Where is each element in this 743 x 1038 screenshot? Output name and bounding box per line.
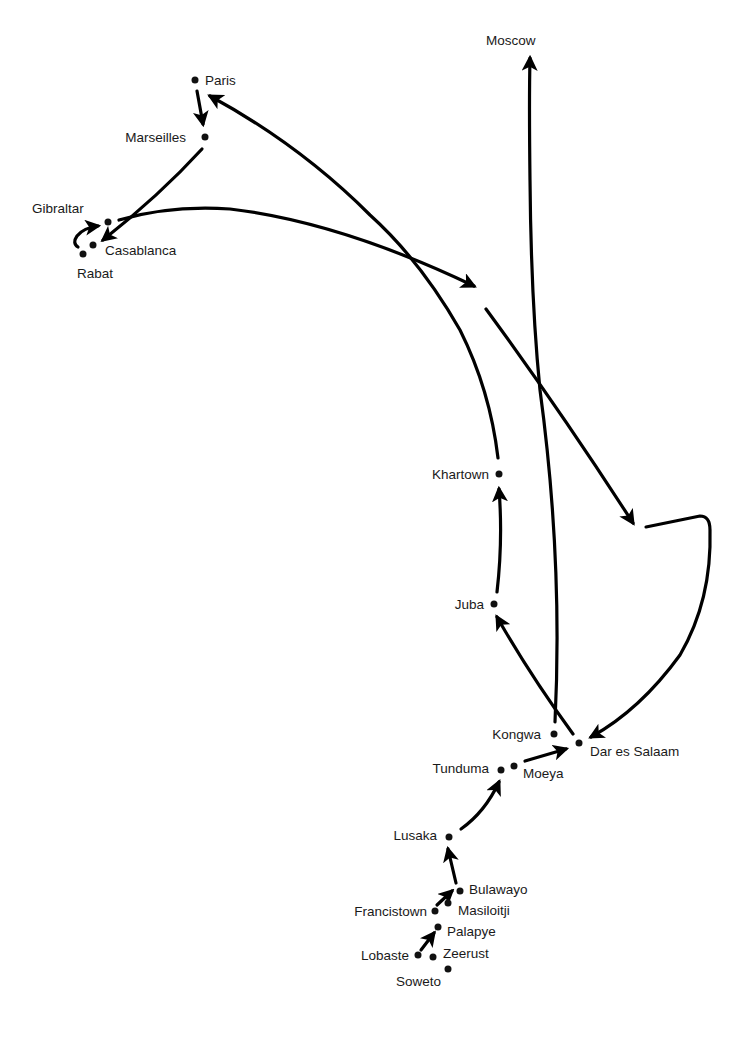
city-dot-soweto [445, 966, 452, 973]
city-label-marseilles: Marseilles [125, 130, 186, 145]
city-label-khartown: Khartown [432, 467, 489, 482]
city-dot-bulawayo [457, 888, 464, 895]
city-dot-zeerust [430, 954, 437, 961]
city-label-palapye: Palapye [447, 924, 496, 939]
route-moeya-dar [525, 749, 566, 761]
routes [75, 58, 710, 950]
city-label-lusaka: Lusaka [393, 828, 437, 843]
city-label-tunduma: Tunduma [432, 761, 489, 776]
city-dot-gibraltar [105, 219, 112, 226]
route-marseilles-casablanca [103, 149, 202, 240]
city-dot-masiloitji [445, 900, 452, 907]
city-dot-francistown [432, 908, 439, 915]
city-label-masiloitji: Masiloitji [458, 903, 510, 918]
city-dot-paris [192, 77, 199, 84]
city-label-casablanca: Casablanca [105, 243, 177, 258]
route-map: Paris Marseilles Gibraltar Casablanca Ra… [0, 0, 743, 1038]
city-label-moscow: Moscow [486, 33, 536, 48]
city-dot-dar-es-salaam [576, 740, 583, 747]
route-lusaka-tunduma [461, 782, 499, 829]
city-dot-juba [491, 601, 498, 608]
city-label-gibraltar: Gibraltar [32, 201, 84, 216]
city-dot-tunduma [498, 767, 505, 774]
route-juba-khartown [497, 489, 501, 592]
route-paris-marseilles [197, 91, 203, 124]
city-label-bulawayo: Bulawayo [469, 882, 528, 897]
route-bulawayo-lusaka [448, 849, 456, 883]
city-dot-moeya [511, 763, 518, 770]
route-east-southeast [486, 309, 633, 523]
city-label-lobaste: Lobaste [361, 948, 409, 963]
city-label-kongwa: Kongwa [492, 727, 541, 742]
city-label-dar-es-salaam: Dar es Salaam [590, 744, 679, 759]
city-dot-lusaka [446, 834, 453, 841]
route-dar-juba [497, 617, 573, 734]
city-dot-marseilles [202, 134, 209, 141]
city-label-zeerust: Zeerust [443, 946, 489, 961]
city-label-francistown: Francistown [354, 904, 427, 919]
city-label-paris: Paris [205, 73, 236, 88]
city-dot-rabat [80, 251, 87, 258]
city-dot-khartown [496, 471, 503, 478]
route-southeast-dar [591, 516, 710, 737]
city-label-rabat: Rabat [77, 266, 113, 281]
city-dot-casablanca [90, 242, 97, 249]
city-label-soweto: Soweto [396, 974, 441, 989]
city-label-moeya: Moeya [523, 766, 564, 781]
city-dot-lobaste [415, 952, 422, 959]
city-dot-palapye [435, 924, 442, 931]
city-labels: Paris Marseilles Gibraltar Casablanca Ra… [32, 33, 679, 989]
city-label-juba: Juba [455, 597, 485, 612]
city-dot-kongwa [551, 731, 558, 738]
route-lobaste-palapye [421, 933, 434, 950]
